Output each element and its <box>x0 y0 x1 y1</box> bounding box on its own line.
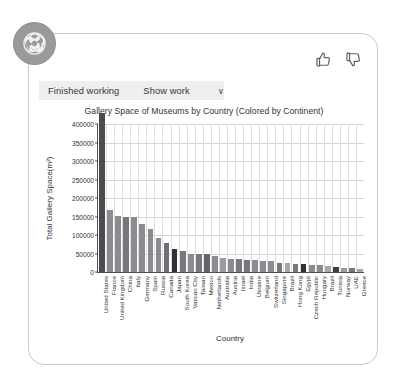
bar <box>333 267 339 272</box>
screenshot-root: Finished working Show work ∨ Gallery Spa… <box>0 0 406 383</box>
bar-slot <box>275 124 283 272</box>
bar-slot <box>203 124 211 272</box>
bar-slot <box>356 124 364 272</box>
bar <box>107 210 113 272</box>
x-label-slot: France <box>105 274 113 330</box>
x-label-slot: Netherlands <box>210 274 218 330</box>
bar-slot <box>171 124 179 272</box>
y-tick-label: 250000 <box>72 176 94 183</box>
y-tick-label: 150000 <box>72 213 94 220</box>
bar <box>277 263 283 272</box>
x-label-slot: South Korea <box>178 274 186 330</box>
y-tick-label: 50000 <box>76 250 94 257</box>
bar-series <box>98 124 364 272</box>
bar <box>156 238 162 272</box>
bar <box>204 254 210 272</box>
bar <box>148 229 154 272</box>
bar <box>268 261 274 272</box>
bar-slot <box>300 124 308 272</box>
x-label-slot: Czech Republic <box>307 274 315 330</box>
plot-area: 0500001000001500002000002500003000003500… <box>97 124 364 273</box>
bar <box>349 268 355 272</box>
bar <box>220 258 226 272</box>
bar-slot <box>114 124 122 272</box>
assistant-message-bubble: Finished working Show work ∨ Gallery Spa… <box>28 33 378 365</box>
x-label-slot: Hungary <box>315 274 323 330</box>
x-tick-label: Greece <box>361 276 367 296</box>
x-axis-labels: United StatesFranceUnited KingdomChinaIt… <box>97 274 363 330</box>
bar-slot <box>106 124 114 272</box>
bar <box>301 264 307 272</box>
bar-slot <box>267 124 275 272</box>
x-label-slot: Canada <box>162 274 170 330</box>
bar <box>317 265 323 272</box>
bar-slot <box>179 124 187 272</box>
bar-slot <box>283 124 291 272</box>
x-label-slot: Italy <box>129 274 137 330</box>
bar <box>172 249 178 272</box>
bar-slot <box>219 124 227 272</box>
x-label-slot: Israel <box>234 274 242 330</box>
bar <box>99 113 105 272</box>
bar <box>212 256 218 272</box>
x-label-slot: China <box>121 274 129 330</box>
y-tick-label: 0 <box>90 269 94 276</box>
bar <box>285 263 291 272</box>
bar-slot <box>308 124 316 272</box>
assistant-avatar <box>13 22 56 65</box>
show-work-button[interactable]: Show work <box>143 86 189 96</box>
bar-slot <box>251 124 259 272</box>
bar <box>196 254 202 272</box>
bar-slot <box>348 124 356 272</box>
y-tick-label: 350000 <box>72 139 94 146</box>
bar-slot <box>316 124 324 272</box>
x-label-slot: Japan <box>170 274 178 330</box>
x-label-slot: Switzerland <box>266 274 274 330</box>
x-label-slot: Taiwan <box>194 274 202 330</box>
y-tick-label: 400000 <box>72 121 94 128</box>
y-tick-label: 200000 <box>72 195 94 202</box>
thumbs-down-icon[interactable] <box>344 50 363 69</box>
bar-slot <box>122 124 130 272</box>
x-label-slot: United Kingdom <box>113 274 121 330</box>
feedback-controls <box>314 50 363 69</box>
bar <box>188 254 194 273</box>
bar-slot <box>130 124 138 272</box>
bar-slot <box>154 124 162 272</box>
bar-slot <box>211 124 219 272</box>
bar <box>115 216 121 272</box>
bar <box>228 259 234 272</box>
chart-title: Gallery Space of Museums by Country (Col… <box>37 106 371 116</box>
bar <box>260 261 266 272</box>
x-label-slot: Greece <box>355 274 363 330</box>
x-label-slot: Vatican City <box>186 274 194 330</box>
bar-slot <box>195 124 203 272</box>
bar-slot <box>332 124 340 272</box>
bar <box>139 224 145 272</box>
x-label-slot: India <box>242 274 250 330</box>
bar <box>123 217 129 273</box>
x-label-slot: Brazil <box>282 274 290 330</box>
bar-slot <box>227 124 235 272</box>
bar <box>325 266 331 272</box>
bar-slot <box>235 124 243 272</box>
work-status-label: Finished working <box>48 86 119 96</box>
x-label-slot: Germany <box>137 274 145 330</box>
bar <box>357 269 363 272</box>
x-label-slot: UAE <box>347 274 355 330</box>
x-label-slot: United States <box>97 274 105 330</box>
bar <box>131 217 137 272</box>
bar-slot <box>340 124 348 272</box>
bar-slot <box>292 124 300 272</box>
bar-slot <box>243 124 251 272</box>
thumbs-up-icon[interactable] <box>314 50 333 69</box>
x-label-slot: Tunisia <box>331 274 339 330</box>
x-label-slot: Austria <box>226 274 234 330</box>
bar-slot <box>146 124 154 272</box>
x-label-slot: Belgium <box>258 274 266 330</box>
chevron-down-icon[interactable]: ∨ <box>218 86 224 96</box>
finished-working-bar[interactable]: Finished working Show work ∨ <box>39 81 224 100</box>
bar-slot <box>163 124 171 272</box>
x-label-slot: Spain <box>145 274 153 330</box>
y-tick-label: 100000 <box>72 232 94 239</box>
